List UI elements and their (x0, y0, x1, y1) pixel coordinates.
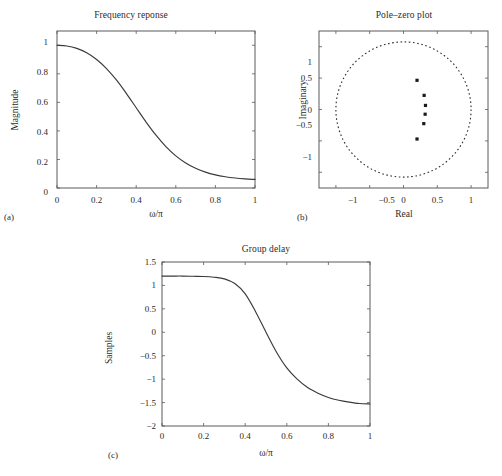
svg-b-unit-circle (336, 42, 471, 177)
panel-frequency-response: Frequency reponse Magnitude ω/π (a) 0 0.… (0, 0, 262, 238)
svg-b-pole-marker-5 (415, 137, 418, 140)
panel-a-plot-area (0, 0, 262, 238)
svg-b-frame (319, 31, 488, 188)
svg-c-data-curve (162, 276, 370, 404)
svg-b-pole-marker-2 (424, 104, 427, 107)
panel-c-plot-area (80, 238, 400, 476)
panel-pole-zero: Pole–zero plot Imaginary Real (b) −1 −0.… (262, 0, 502, 238)
svg-c-frame (162, 262, 370, 426)
svg-a-frame (57, 31, 255, 188)
svg-b-pole-marker-4 (422, 122, 425, 125)
panel-b-plot-area (262, 0, 502, 238)
svg-b-pole-marker-1 (423, 94, 426, 97)
panel-group-delay: Group delay Samples ω/π (c) 1.5 1 0.5 0 … (80, 238, 400, 476)
svg-b-pole-marker-3 (424, 113, 427, 116)
figure-container: Frequency reponse Magnitude ω/π (a) 0 0.… (0, 0, 502, 476)
svg-b-pole-marker-0 (415, 79, 418, 82)
svg-a-data-curve (57, 45, 255, 179)
